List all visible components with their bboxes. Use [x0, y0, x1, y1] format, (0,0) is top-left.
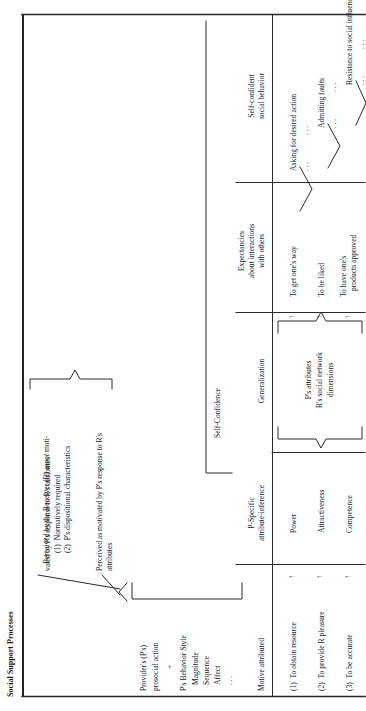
perception-collector-brace	[30, 370, 112, 389]
generalization-right-brace	[278, 312, 362, 333]
splitter-apex	[119, 583, 127, 601]
connector-row-0	[300, 167, 312, 211]
connector-row-2	[356, 81, 366, 125]
generalization-left-brace	[278, 427, 362, 448]
splitter-line-down	[102, 575, 120, 595]
connector-row-1	[328, 124, 340, 168]
self-confidence-bracket	[206, 21, 232, 473]
provider-bracket	[132, 583, 242, 599]
